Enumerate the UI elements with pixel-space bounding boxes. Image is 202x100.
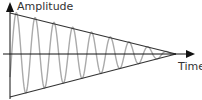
envelope-lower (10, 54, 176, 97)
envelope-upper (10, 13, 176, 54)
oscillation-curve (10, 13, 176, 93)
x-axis-label: Time (178, 60, 202, 73)
y-axis-arrow-icon (6, 2, 14, 12)
damped-oscillation-diagram (0, 0, 202, 100)
y-axis-label: Amplitude (17, 0, 73, 13)
x-axis-arrow-icon (186, 50, 195, 58)
